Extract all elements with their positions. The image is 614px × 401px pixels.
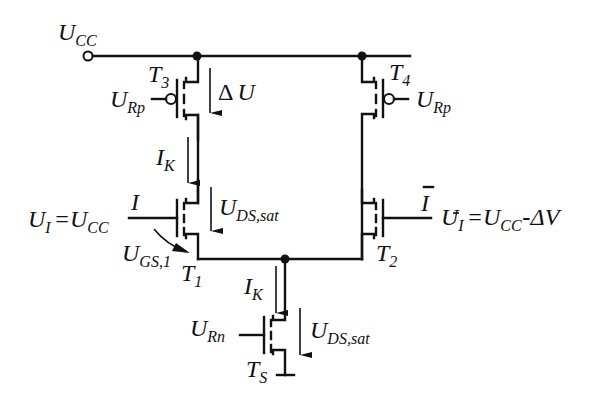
ik-lower-label: IK <box>243 273 264 303</box>
uds-sat-ts-label: UDS,sat <box>310 317 370 347</box>
uibar-equation-label: UI=UCC-ΔV <box>441 204 562 234</box>
ts-gate-label: URn <box>190 315 225 345</box>
ik-upper-label: IK <box>155 144 176 174</box>
ugs1-label: UGS,1 <box>122 240 171 270</box>
inverter-bubble-icon <box>384 94 394 104</box>
t1-label: T1 <box>181 260 202 290</box>
circuit-diagram: UCC T3 URp ΔU IK I UI=UCC UDS,sat UGS,1 … <box>0 0 614 401</box>
inverter-bubble-icon <box>166 94 176 104</box>
t1-gate-signal-label: I <box>130 189 140 215</box>
t2-gate-signal-label: I <box>420 190 430 216</box>
t3-gate-label: URp <box>110 86 145 117</box>
transistor-t1 <box>129 180 198 259</box>
uds-sat-t1-label: UDS,sat <box>219 194 279 224</box>
t3-label: T3 <box>148 61 169 91</box>
t2-label: T2 <box>376 240 397 270</box>
delta-u-label: ΔU <box>218 79 256 105</box>
ts-label: TS <box>246 356 267 386</box>
supply-terminal-icon <box>84 52 93 61</box>
ugs1-arrowhead-icon <box>172 243 190 253</box>
t4-gate-label: URp <box>416 86 451 117</box>
transistor-t4 <box>362 56 408 259</box>
t4-label: T4 <box>389 59 410 89</box>
supply-label: UCC <box>58 19 97 49</box>
ui-equation-label: UI=UCC <box>28 206 109 236</box>
